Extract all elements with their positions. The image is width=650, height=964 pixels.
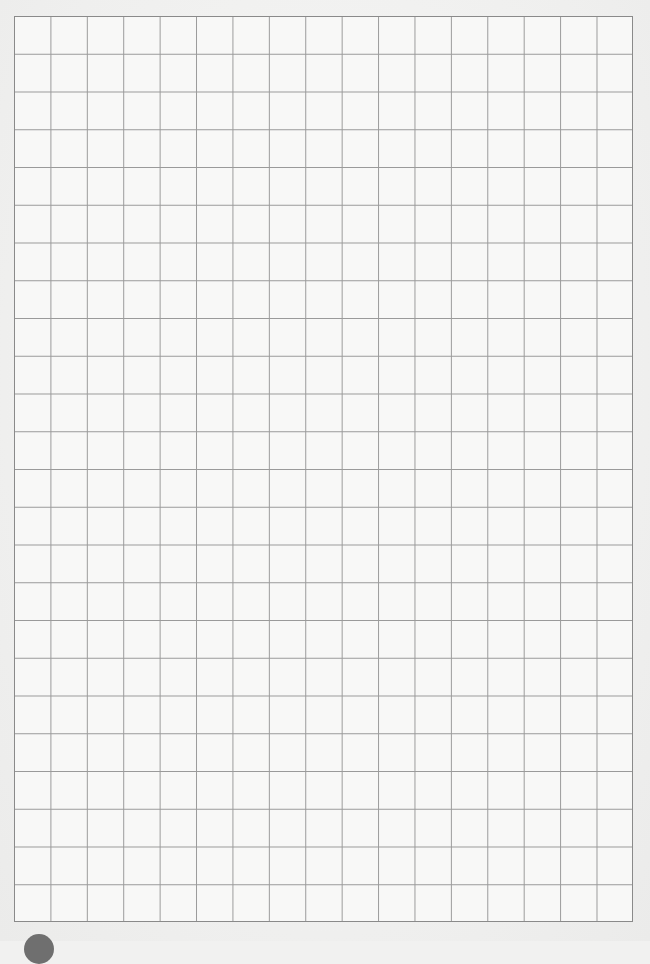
- graph-paper-grid: [14, 16, 633, 922]
- corner-circle-mark: [24, 934, 54, 964]
